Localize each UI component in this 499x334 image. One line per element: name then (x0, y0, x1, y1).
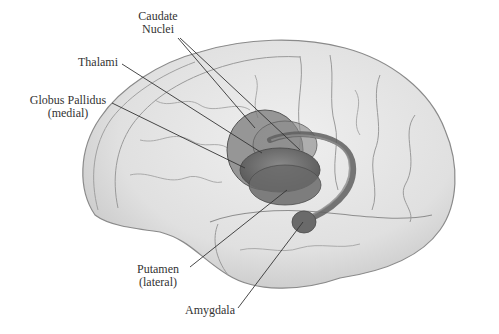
label-amygdala: Amygdala (180, 304, 240, 317)
label-globus-line2: (medial) (20, 107, 116, 120)
label-putamen: Putamen (lateral) (130, 263, 186, 289)
amygdala-shape (292, 211, 316, 233)
label-thalami: Thalami (74, 56, 122, 69)
label-caudate-nuclei: Caudate Nuclei (128, 10, 188, 36)
putamen-shape (249, 165, 321, 205)
brain-diagram (0, 0, 499, 334)
label-putamen-line2: (lateral) (130, 276, 186, 289)
label-caudate-line2: Nuclei (128, 23, 188, 36)
label-thalami-line1: Thalami (74, 56, 122, 69)
label-amygdala-line1: Amygdala (180, 304, 240, 317)
label-globus-pallidus: Globus Pallidus (medial) (20, 94, 116, 120)
